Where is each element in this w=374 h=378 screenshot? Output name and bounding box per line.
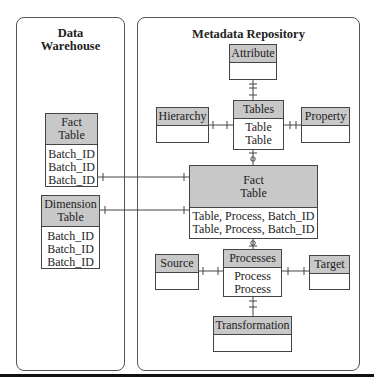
row: Process [224, 283, 281, 296]
attribute-header: Attribute [230, 45, 276, 63]
dw-fact-table-header: Fact Table [46, 114, 97, 145]
hierarchy-entity: Hierarchy [156, 107, 209, 143]
dw-fact-table-rows: Batch_ID Batch_ID Batch_ID [46, 145, 97, 187]
processes-entity: Processes Process Process [223, 249, 282, 297]
md-fact-table-rows: Table, Process, Batch_ID Table, Process,… [190, 208, 317, 236]
header-line-2: Table [240, 187, 266, 200]
dw-dimension-table-header: Dimension Table [42, 196, 99, 227]
tables-rows: Table Table [234, 119, 283, 147]
dw-dimension-table-rows: Batch_ID Batch_ID Batch_ID [42, 227, 99, 269]
hierarchy-header: Hierarchy [157, 108, 208, 126]
processes-header: Processes [224, 250, 281, 268]
dw-fact-table-entity: Fact Table Batch_ID Batch_ID Batch_ID [45, 113, 98, 187]
bottom-rule [0, 374, 374, 377]
tables-header: Tables [234, 101, 283, 119]
header-line-1: Fact [243, 174, 264, 187]
attribute-entity: Attribute [229, 44, 277, 80]
source-entity: Source [155, 254, 199, 290]
transformation-entity: Transformation [213, 316, 292, 352]
row: Batch_ID [42, 256, 99, 269]
property-header: Property [302, 108, 349, 126]
transformation-header: Transformation [214, 317, 291, 335]
row: Table, Process, Batch_ID [190, 223, 317, 236]
row: Table [234, 134, 283, 147]
md-fact-table-entity: Fact Table Table, Process, Batch_ID Tabl… [189, 165, 318, 239]
row: Batch_ID [46, 174, 97, 187]
target-header: Target [310, 256, 349, 274]
target-entity: Target [309, 255, 350, 290]
header-line-2: Table [58, 129, 84, 142]
header-line-2: Table [57, 211, 83, 224]
source-header: Source [156, 255, 198, 273]
tables-entity: Tables Table Table [233, 100, 284, 150]
property-entity: Property [301, 107, 350, 143]
md-fact-table-header: Fact Table [190, 166, 317, 208]
dw-dimension-table-entity: Dimension Table Batch_ID Batch_ID Batch_… [41, 195, 100, 269]
processes-rows: Process Process [224, 268, 281, 296]
